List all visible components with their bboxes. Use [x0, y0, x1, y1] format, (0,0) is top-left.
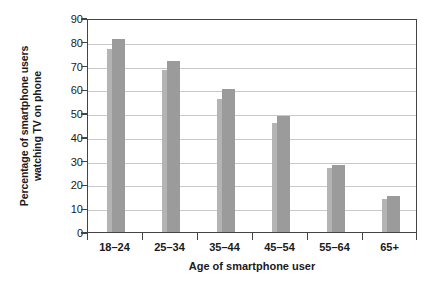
- y-axis-tick-label: 30: [50, 155, 83, 169]
- y-axis-tick-labels: 0102030405060708090: [50, 12, 83, 240]
- x-axis-tick-mark: [142, 233, 143, 240]
- bar-front-face: [222, 89, 235, 232]
- bar: [107, 39, 125, 232]
- y-axis-title-line-2: watching TV on phone: [31, 46, 44, 206]
- x-axis-tick-mark: [252, 233, 253, 240]
- bar: [382, 196, 400, 232]
- y-axis-tick-label: 10: [50, 202, 83, 216]
- bar-front-face: [332, 165, 345, 232]
- x-axis-tick-mark: [307, 233, 308, 240]
- x-axis-tick-mark: [197, 233, 198, 240]
- bar-front-face: [277, 116, 290, 233]
- bar: [162, 61, 180, 232]
- bar-chart-figure: Percentage of smartphone users watching …: [0, 0, 437, 281]
- y-axis-tick-label: 70: [50, 60, 83, 74]
- bar-front-face: [167, 61, 180, 232]
- bar: [217, 89, 235, 232]
- y-axis-tick-label: 40: [50, 131, 83, 145]
- y-axis-title: Percentage of smartphone users watching …: [13, 18, 49, 234]
- bar-front-face: [387, 196, 400, 232]
- y-axis-tick-label: 50: [50, 107, 83, 121]
- plot-area: [87, 19, 417, 233]
- bar: [327, 165, 345, 232]
- y-axis-tick-label: 80: [50, 36, 83, 50]
- y-axis-tick-label: 60: [50, 83, 83, 97]
- x-axis-tick-mark: [87, 233, 88, 240]
- bar: [272, 116, 290, 233]
- x-axis-tick-labels: 18–2425–3435–4445–5455–6465+: [87, 240, 417, 256]
- bar-front-face: [112, 39, 125, 232]
- y-axis-tick-label: 20: [50, 178, 83, 192]
- bars-layer: [88, 20, 416, 232]
- y-axis-tick-label: 90: [50, 12, 83, 26]
- x-axis-tick-mark: [416, 233, 417, 240]
- x-axis-tick-mark: [362, 233, 363, 240]
- x-axis-title: Age of smartphone user: [87, 260, 417, 272]
- x-axis-tick-marks: [87, 233, 417, 240]
- y-axis-title-line-1: Percentage of smartphone users: [18, 46, 31, 206]
- y-axis-tick-label: 0: [50, 226, 83, 240]
- x-axis-tick-label: 65+: [355, 240, 425, 254]
